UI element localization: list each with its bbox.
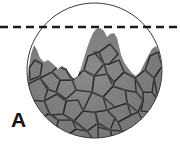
figure-panel: A: [0, 0, 180, 145]
figure-graphic: [0, 0, 180, 145]
panel-label: A: [11, 108, 26, 132]
